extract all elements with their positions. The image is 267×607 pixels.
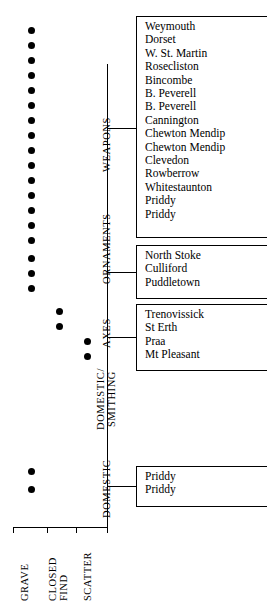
data-point (28, 468, 35, 475)
data-point (28, 72, 35, 79)
data-point (28, 255, 35, 262)
site-name: Rowberrow (145, 167, 267, 180)
site-name: St Erth (145, 321, 267, 334)
x-axis-label-grave: GRAVE (19, 564, 30, 601)
site-name: Cannington (145, 114, 267, 127)
y-category-label-weapons: WEAPONS (101, 117, 112, 172)
data-point (28, 42, 35, 49)
x-axis-label-closed-find: CLOSED FIND (47, 531, 69, 601)
data-point (28, 57, 35, 64)
data-point (84, 353, 91, 360)
site-name: Culliford (145, 262, 267, 275)
bracket-connector-weapons (107, 128, 136, 129)
site-name: B. Peverell (145, 87, 267, 100)
data-point (28, 270, 35, 277)
x-axis-tick-scatter (76, 528, 77, 533)
x-axis-tick-grave (13, 528, 14, 533)
y-category-label-domestic-smithing: DOMESTIC/ SMITHING (95, 354, 117, 444)
data-point (28, 27, 35, 34)
site-name: Clevedon (145, 154, 267, 167)
site-name: B. Peverell (145, 100, 267, 113)
x-axis-label-scatter: SCATTER (82, 552, 93, 601)
bracket-connector-axes (107, 337, 136, 338)
x-axis-tick-end (107, 528, 108, 533)
site-name: Priddy (145, 194, 267, 207)
site-name: Puddletown (145, 276, 267, 289)
y-category-label-axes: AXES (101, 318, 112, 348)
site-name: Mt Pleasant (145, 348, 267, 361)
y-category-label-ornaments: ORNAMENTS (101, 213, 112, 284)
site-name: Rosecliston (145, 60, 267, 73)
data-point (28, 162, 35, 169)
site-name: Whitestaunton (145, 181, 267, 194)
bracket-connector-ornaments (107, 272, 136, 273)
data-point (28, 117, 35, 124)
y-category-label-domestic: DOMESTIC (101, 460, 112, 518)
site-name: Praa (145, 335, 267, 348)
data-point (84, 338, 91, 345)
data-point (56, 323, 63, 330)
data-point (28, 87, 35, 94)
data-point (28, 102, 35, 109)
site-list-axes: Trenovissick St Erth Praa Mt Pleasant (136, 304, 267, 371)
data-point (28, 486, 35, 493)
site-list-domestic: Priddy Priddy (136, 466, 267, 507)
site-name: Chewton Mendip (145, 141, 267, 154)
site-name: Priddy (145, 483, 267, 496)
site-list-weapons: Weymouth Dorset W. St. Martin Roseclisto… (136, 16, 267, 238)
data-point (28, 147, 35, 154)
x-axis-line (13, 527, 108, 528)
site-list-ornaments: North Stoke Culliford Puddletown (136, 245, 267, 299)
data-point (28, 237, 35, 244)
bracket-connector-domestic (107, 486, 136, 487)
site-name: Dorset (145, 33, 267, 46)
site-name: Priddy (145, 470, 267, 483)
data-point (28, 177, 35, 184)
data-point (28, 207, 35, 214)
site-name: Bincombe (145, 74, 267, 87)
scatter-figure: WEAPONS ORNAMENTS AXES DOMESTIC/ SMITHIN… (0, 0, 267, 607)
site-name: Priddy (145, 208, 267, 221)
site-name: W. St. Martin (145, 47, 267, 60)
data-point (28, 285, 35, 292)
site-name: Trenovissick (145, 308, 267, 321)
site-name: North Stoke (145, 249, 267, 262)
data-point (28, 132, 35, 139)
site-name: Weymouth (145, 20, 267, 33)
data-point (28, 192, 35, 199)
data-point (56, 308, 63, 315)
site-name: Chewton Mendip (145, 127, 267, 140)
data-point (28, 222, 35, 229)
